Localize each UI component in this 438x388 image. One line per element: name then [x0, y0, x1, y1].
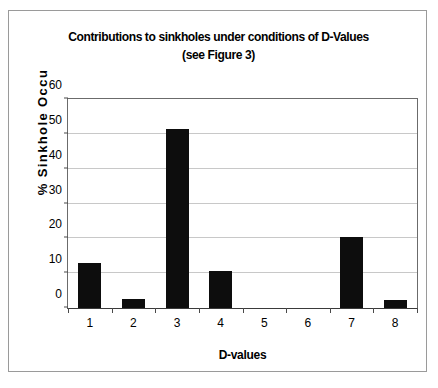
chart-title-line-2: (see Figure 3)	[24, 46, 414, 64]
x-tick-mark	[330, 308, 331, 313]
chart-container: Contributions to sinkholes under conditi…	[8, 10, 427, 372]
bar-slot	[155, 99, 199, 308]
x-tick-mark	[286, 308, 287, 313]
bar-series	[68, 99, 417, 308]
bar	[78, 263, 101, 308]
x-axis-ticks	[68, 308, 417, 313]
x-tick-label: 1	[68, 316, 112, 330]
y-tick-label: 50	[49, 113, 62, 127]
x-tick-label: 3	[155, 316, 199, 330]
bar-slot	[199, 99, 243, 308]
bar	[384, 300, 407, 308]
x-tick-mark	[112, 308, 113, 313]
y-tick-label: 30	[49, 183, 62, 197]
x-tick-mark	[155, 308, 156, 313]
bar	[340, 237, 363, 308]
x-tick-label: 5	[243, 316, 287, 330]
y-tick-label: 10	[49, 252, 62, 266]
x-tick-mark	[199, 308, 200, 313]
x-tick-mark	[243, 308, 244, 313]
x-tick-mark	[373, 308, 374, 313]
x-tick-label: 8	[373, 316, 417, 330]
bar-slot	[330, 99, 374, 308]
y-tick-label: 0	[55, 287, 62, 301]
bar	[209, 271, 232, 308]
bar-slot	[373, 99, 417, 308]
bar	[166, 129, 189, 308]
x-tick-label: 4	[199, 316, 243, 330]
bar-slot	[286, 99, 330, 308]
x-axis-title: D-values	[67, 348, 418, 362]
chart-title: Contributions to sinkholes under conditi…	[24, 28, 414, 64]
x-axis-labels: 12345678	[68, 316, 417, 330]
x-tick-label: 6	[286, 316, 330, 330]
bar	[122, 299, 145, 308]
bar-slot	[243, 99, 287, 308]
bar-slot	[112, 99, 156, 308]
plot-area: 0102030405060 12345678	[67, 98, 418, 309]
chart-title-line-1: Contributions to sinkholes under conditi…	[24, 28, 414, 46]
x-tick-mark	[68, 308, 69, 313]
y-tick-label: 20	[49, 217, 62, 231]
y-tick-label: 60	[49, 78, 62, 92]
bar-slot	[68, 99, 112, 308]
x-tick-label: 2	[112, 316, 156, 330]
y-tick-label: 40	[49, 148, 62, 162]
x-tick-mark	[417, 308, 418, 313]
x-tick-label: 7	[330, 316, 374, 330]
